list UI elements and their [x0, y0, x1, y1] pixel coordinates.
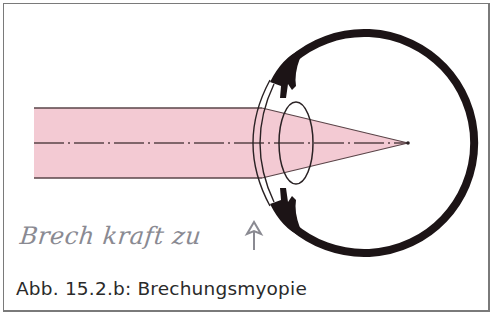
- ciliary-body-upper: [270, 50, 300, 98]
- up-arrow-icon: [242, 220, 266, 252]
- figure-caption: Abb. 15.2.b: Brechungsmyopie: [16, 278, 307, 299]
- handwritten-note-text: Brech kraft zu: [19, 222, 203, 250]
- handwritten-note: Brech kraft zu: [19, 222, 203, 250]
- focal-point: [406, 141, 410, 145]
- ciliary-body-lower: [270, 188, 300, 236]
- eye-diagram: [0, 0, 494, 324]
